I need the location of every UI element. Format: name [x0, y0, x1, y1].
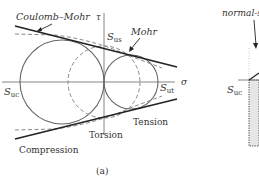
sigma-axis-label: σ: [181, 77, 188, 87]
s-us-label: Sus: [107, 31, 122, 44]
compression-label: Compression: [19, 145, 79, 155]
mohr-diagram: Coulomb–Mohr τ Mohr Sus Suc Sut σ Tensio…: [0, 0, 259, 183]
shaded-region: [249, 80, 259, 146]
normal-stress-label: normal-s: [222, 8, 259, 18]
side-s-uc-label: Suc: [227, 84, 242, 97]
tension-label: Tension: [133, 117, 168, 127]
coulomb-mohr-label: Coulomb–Mohr: [16, 11, 91, 22]
torsion-label: Torsion: [89, 130, 123, 140]
normal-stress-arrow: [254, 20, 256, 45]
s-uc-label: Suc: [4, 86, 19, 99]
mohr-label: Mohr: [130, 26, 159, 37]
mohr-arrow: [131, 38, 140, 49]
coulomb-mohr-arrowhead: [36, 27, 42, 32]
side-envelope: [249, 73, 259, 80]
mohr-envelope-top: [15, 34, 162, 68]
s-ut-label: Sut: [160, 82, 174, 95]
tau-axis-label: τ: [96, 12, 101, 22]
figure-caption: (a): [96, 166, 108, 176]
normal-stress-arrowhead: [253, 43, 258, 49]
